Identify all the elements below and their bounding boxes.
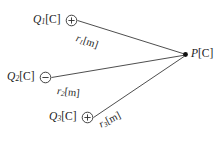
charge-label-q3: Q3[C] bbox=[49, 111, 77, 123]
charge-unit-q1: [C] bbox=[45, 13, 60, 25]
distance-unit-r2: [m] bbox=[64, 86, 80, 99]
charge-unit-q3: [C] bbox=[61, 110, 76, 122]
positive-charge-marker-q1 bbox=[65, 14, 78, 27]
charge-label-q2: Q2[C] bbox=[7, 71, 35, 83]
charge-unit-q2: [C] bbox=[19, 70, 34, 82]
positive-charge-marker-q3 bbox=[81, 111, 94, 124]
field-point-label: P[C] bbox=[191, 48, 213, 60]
line-q2-to-p bbox=[52, 55, 185, 77]
negative-charge-marker-q2 bbox=[39, 71, 52, 84]
charge-label-q1: Q1[C] bbox=[33, 14, 61, 26]
point-charge-diagram: Q1[C] Q2[C] Q3[C] r1[m] r2[m] r3[m] P[C] bbox=[0, 0, 221, 143]
line-q3-to-p bbox=[94, 56, 185, 117]
distance-label-r2: r2[m] bbox=[56, 86, 80, 100]
field-point-unit: [C] bbox=[198, 47, 213, 59]
field-point-symbol: P bbox=[191, 47, 198, 59]
field-point-dot bbox=[182, 51, 189, 58]
